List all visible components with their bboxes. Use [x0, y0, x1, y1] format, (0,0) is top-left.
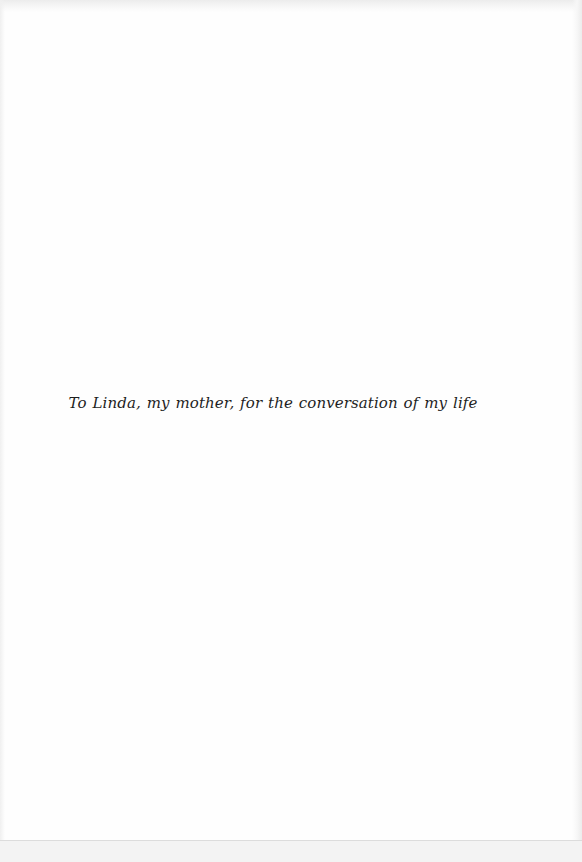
dedication-text: To Linda, my mother, for the conversatio…: [0, 394, 546, 412]
scan-edge-left: [0, 0, 5, 862]
book-page: To Linda, my mother, for the conversatio…: [0, 0, 582, 862]
scan-edge-right: [572, 0, 582, 862]
scan-edge-bottom: [0, 840, 582, 862]
scan-edge-line: [0, 840, 582, 841]
scan-edge-top: [0, 0, 582, 12]
